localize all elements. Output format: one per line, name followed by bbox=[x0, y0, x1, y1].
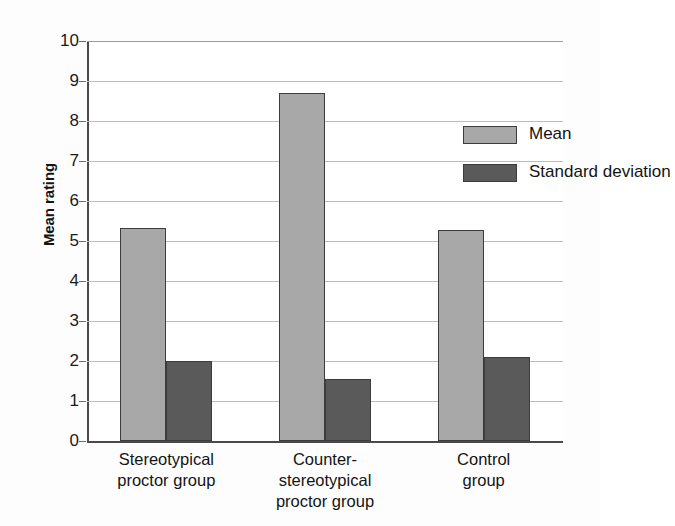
category-label-2-line-1: Counter- bbox=[245, 449, 405, 470]
x-axis-line bbox=[87, 441, 563, 443]
y-tick-label-5: 5 bbox=[39, 231, 79, 251]
category-label-2-line-2: stereotypical bbox=[245, 470, 405, 491]
y-tick-mark-10 bbox=[79, 41, 86, 42]
y-tick-mark-4 bbox=[79, 281, 86, 282]
y-tick-mark-5 bbox=[79, 241, 86, 242]
bar-mean-3 bbox=[438, 230, 484, 441]
category-label-3-line-2: group bbox=[404, 470, 564, 491]
y-tick-label-9: 9 bbox=[39, 71, 79, 91]
gridline-7 bbox=[87, 161, 563, 162]
category-label-1: Stereotypicalproctor group bbox=[86, 449, 246, 491]
y-tick-mark-1 bbox=[79, 401, 86, 402]
y-tick-label-8: 8 bbox=[39, 111, 79, 131]
y-tick-mark-6 bbox=[79, 201, 86, 202]
gridline-10 bbox=[87, 41, 563, 42]
y-tick-mark-7 bbox=[79, 161, 86, 162]
category-label-3-line-1: Control bbox=[404, 449, 564, 470]
legend-swatch-mean bbox=[463, 126, 517, 144]
category-label-2-line-3: proctor group bbox=[245, 491, 405, 512]
bar-sd-1 bbox=[166, 361, 212, 441]
y-tick-label-7: 7 bbox=[39, 151, 79, 171]
y-tick-label-1: 1 bbox=[39, 391, 79, 411]
legend-swatch-standard-deviation bbox=[463, 164, 517, 182]
y-tick-mark-3 bbox=[79, 321, 86, 322]
bar-sd-3 bbox=[484, 357, 530, 441]
y-tick-label-2: 2 bbox=[39, 351, 79, 371]
y-tick-mark-2 bbox=[79, 361, 86, 362]
category-label-1-line-2: proctor group bbox=[86, 470, 246, 491]
y-tick-label-0: 0 bbox=[39, 431, 79, 451]
y-tick-label-6: 6 bbox=[39, 191, 79, 211]
category-label-2: Counter-stereotypicalproctor group bbox=[245, 449, 405, 512]
gridline-9 bbox=[87, 81, 563, 82]
y-tick-mark-9 bbox=[79, 81, 86, 82]
y-axis-tick-labels: 109876543210 bbox=[33, 41, 79, 443]
legend-label-1: Mean bbox=[529, 124, 572, 144]
category-label-3: Controlgroup bbox=[404, 449, 564, 491]
y-tick-mark-0 bbox=[79, 441, 86, 442]
gridline-8 bbox=[87, 121, 563, 122]
bar-sd-2 bbox=[325, 379, 371, 441]
category-label-1-line-1: Stereotypical bbox=[86, 449, 246, 470]
y-tick-label-3: 3 bbox=[39, 311, 79, 331]
x-axis-category-labels: Stereotypicalproctor groupCounter-stereo… bbox=[87, 449, 563, 523]
legend-label-2: Standard deviation bbox=[529, 162, 671, 182]
gridline-6 bbox=[87, 201, 563, 202]
y-axis-line bbox=[87, 41, 89, 443]
plot-area: MeanStandard deviation bbox=[87, 41, 563, 443]
bar-mean-1 bbox=[120, 228, 166, 441]
bar-mean-2 bbox=[279, 93, 325, 441]
y-tick-mark-8 bbox=[79, 121, 86, 122]
y-tick-label-10: 10 bbox=[39, 31, 79, 51]
y-tick-label-4: 4 bbox=[39, 271, 79, 291]
